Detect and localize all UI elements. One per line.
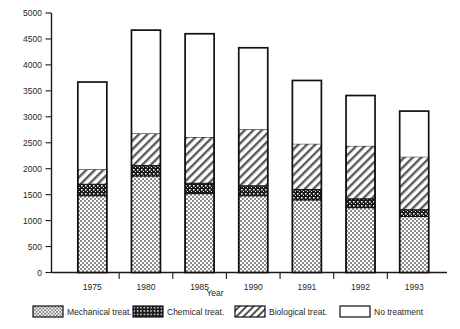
- bar-segment-diagonal-hatch: [292, 144, 321, 190]
- y-tick-label: 4500: [23, 34, 42, 44]
- y-tick-label: 3000: [23, 112, 42, 122]
- y-tick-label: 1500: [23, 190, 42, 200]
- bar-segment-empty: [292, 80, 321, 143]
- bar-segment-dark-dots: [185, 183, 214, 193]
- bar-segment-empty: [78, 82, 107, 169]
- x-axis-tick-labels: 1975198019851990199119921993: [83, 282, 424, 292]
- bar-segment-dark-dots: [346, 199, 375, 208]
- bar-segment-light-dots: [239, 196, 268, 273]
- y-tick-label: 500: [28, 242, 42, 252]
- legend-item: Chemical treat.: [133, 306, 224, 317]
- stacked-bar-chart: 0500100015002000250030003500400045005000…: [0, 0, 460, 329]
- y-axis: 0500100015002000250030003500400045005000: [23, 8, 51, 278]
- bar-segment-dark-dots: [78, 184, 107, 195]
- legend-item: No treatment: [340, 306, 424, 317]
- bar-group: [346, 96, 375, 273]
- bar-segment-empty: [131, 30, 160, 133]
- bar-group: [292, 80, 321, 272]
- bar-segment-diagonal-hatch: [78, 169, 107, 184]
- x-tick-label: 1993: [405, 282, 424, 292]
- legend-item: Biological treat.: [235, 306, 327, 317]
- x-tick-label: 1975: [83, 282, 102, 292]
- bar-segment-diagonal-hatch: [131, 133, 160, 165]
- bar-segment-dark-dots: [400, 210, 429, 217]
- x-tick-label: 1980: [137, 282, 156, 292]
- y-tick-label: 2000: [23, 164, 42, 174]
- x-tick-label: 1991: [297, 282, 316, 292]
- bar-group: [239, 48, 268, 273]
- bar-segment-light-dots: [185, 194, 214, 273]
- y-axis-ticks: [46, 13, 52, 273]
- y-axis-tick-labels: 0500100015002000250030003500400045005000: [23, 8, 42, 278]
- chart-legend: Mechanical treat.Chemical treat.Biologic…: [33, 306, 424, 317]
- bar-segment-empty: [400, 111, 429, 157]
- bar-segment-diagonal-hatch: [400, 157, 429, 210]
- bar-segment-empty: [185, 34, 214, 137]
- bar-group: [78, 82, 107, 272]
- bar-segment-light-dots: [292, 200, 321, 273]
- bar-segment-light-dots: [400, 216, 429, 272]
- x-axis: 1975198019851990199119921993 Year: [52, 273, 448, 299]
- bar-group: [131, 30, 160, 272]
- y-tick-label: 2500: [23, 138, 42, 148]
- bar-segment-dark-dots: [239, 186, 268, 196]
- legend-item: Mechanical treat.: [33, 306, 132, 317]
- legend-label: Mechanical treat.: [67, 307, 132, 317]
- y-tick-label: 4000: [23, 60, 42, 70]
- legend-label: Chemical treat.: [167, 307, 224, 317]
- bar-segment-dark-dots: [292, 189, 321, 199]
- bar-segment-light-dots: [346, 208, 375, 273]
- bar-segment-light-dots: [131, 176, 160, 273]
- bar-segment-empty: [239, 48, 268, 129]
- x-tick-label: 1990: [244, 282, 263, 292]
- legend-swatch-empty-swatch: [340, 306, 370, 317]
- legend-label: Biological treat.: [269, 307, 327, 317]
- bar-segment-light-dots: [78, 196, 107, 273]
- y-tick-label: 5000: [23, 8, 42, 18]
- bar-group: [185, 34, 214, 273]
- y-tick-label: 3500: [23, 86, 42, 96]
- bar-segment-diagonal-hatch: [239, 129, 268, 186]
- bar-segment-dark-dots: [131, 166, 160, 176]
- legend-label: No treatment: [374, 307, 424, 317]
- legend-swatch-dark-dots-swatch: [133, 306, 163, 317]
- bar-segment-empty: [346, 96, 375, 146]
- bar-segment-diagonal-hatch: [346, 146, 375, 199]
- x-axis-ticks: [119, 273, 387, 280]
- chart-canvas: 0500100015002000250030003500400045005000…: [0, 0, 460, 329]
- y-tick-label: 0: [37, 268, 42, 278]
- x-tick-label: 1992: [351, 282, 370, 292]
- y-tick-label: 1000: [23, 216, 42, 226]
- legend-swatch-diagonal-hatch-swatch: [235, 306, 265, 317]
- legend-swatch-light-dots-swatch: [33, 306, 63, 317]
- bar-series-group: [78, 30, 429, 272]
- x-axis-title: Year: [206, 288, 223, 298]
- bar-group: [400, 111, 429, 272]
- bar-segment-diagonal-hatch: [185, 137, 214, 183]
